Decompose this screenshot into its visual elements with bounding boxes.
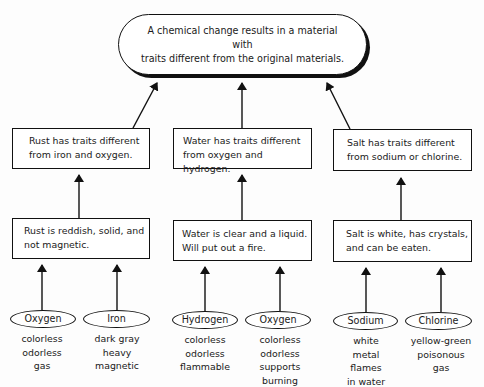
trait: colorless: [2, 332, 82, 346]
water-summary-line2: from oxygen and hydrogen.: [183, 148, 311, 176]
trait: odorless: [165, 347, 245, 361]
trait: odorless: [240, 347, 320, 361]
trait: flammable: [165, 360, 245, 374]
element-oxygen-rust: Oxygen: [10, 310, 76, 328]
element-sodium: Sodium: [333, 312, 398, 330]
trait: yellow-green: [401, 334, 481, 348]
rust-summary-box: Rust has traits different from iron and …: [12, 128, 150, 169]
main-concept-node: A chemical change results in a material …: [118, 14, 367, 75]
element-name: Hydrogen: [182, 315, 229, 325]
main-concept-line2: traits different from the original mater…: [137, 52, 348, 66]
trait: magnetic: [77, 359, 157, 373]
rust-description-line1: Rust is reddish, solid, and: [24, 224, 149, 238]
water-description-box: Water is clear and a liquid. Will put ou…: [173, 220, 312, 261]
element-name: Oxygen: [260, 315, 297, 325]
water-summary-box: Water has traits different from oxygen a…: [173, 128, 312, 169]
element-name: Chlorine: [419, 316, 459, 326]
trait: odorless: [2, 346, 82, 360]
sodium-traits: white metal flames in water: [326, 334, 406, 387]
water-description-line1: Water is clear and a liquid.: [182, 227, 311, 241]
trait: flames: [326, 361, 406, 375]
element-name: Oxygen: [25, 314, 62, 324]
trait: colorless: [240, 333, 320, 347]
trait: in water: [326, 375, 406, 387]
element-name: Iron: [107, 314, 126, 324]
oxygen-rust-traits: colorless odorless gas: [2, 332, 82, 373]
salt-description-line1: Salt is white, has crystals,: [346, 227, 471, 241]
trait: heavy: [77, 346, 157, 360]
hydrogen-traits: colorless odorless flammable: [165, 333, 245, 374]
trait: gas: [401, 361, 481, 375]
chlorine-traits: yellow-green poisonous gas: [401, 334, 481, 375]
rust-summary-line2: from iron and oxygen.: [29, 148, 149, 162]
element-iron: Iron: [83, 310, 150, 328]
concept-map: A chemical change results in a material …: [0, 0, 484, 387]
rust-summary-line1: Rust has traits different: [29, 134, 149, 148]
trait: dark gray: [77, 332, 157, 346]
rust-description-box: Rust is reddish, solid, and not magnetic…: [12, 218, 150, 259]
arrow-salt-to-main: [327, 83, 350, 129]
trait: metal: [326, 348, 406, 362]
salt-summary-line2: from sodium or chlorine.: [347, 150, 471, 164]
trait: gas: [2, 359, 82, 373]
water-summary-line1: Water has traits different: [183, 134, 311, 148]
element-chlorine: Chlorine: [405, 312, 472, 330]
trait: colorless: [165, 333, 245, 347]
water-description-line2: Will put out a fire.: [182, 241, 311, 255]
oxygen-water-traits: colorless odorless supports burning: [240, 333, 320, 387]
element-hydrogen: Hydrogen: [172, 311, 238, 329]
element-name: Sodium: [347, 316, 383, 326]
salt-summary-box: Salt has traits different from sodium or…: [333, 129, 472, 171]
trait: white: [326, 334, 406, 348]
element-oxygen-water: Oxygen: [245, 311, 311, 329]
salt-description-line2: and can be eaten.: [346, 241, 471, 255]
arrow-rust-to-main: [133, 83, 157, 128]
trait: burning: [240, 374, 320, 387]
iron-traits: dark gray heavy magnetic: [77, 332, 157, 373]
rust-description-line2: not magnetic.: [24, 238, 149, 252]
main-concept-line1: A chemical change results in a material …: [137, 24, 348, 52]
trait: poisonous: [401, 348, 481, 362]
trait: supports: [240, 360, 320, 374]
salt-description-box: Salt is white, has crystals, and can be …: [333, 220, 472, 262]
salt-summary-line1: Salt has traits different: [347, 136, 471, 150]
